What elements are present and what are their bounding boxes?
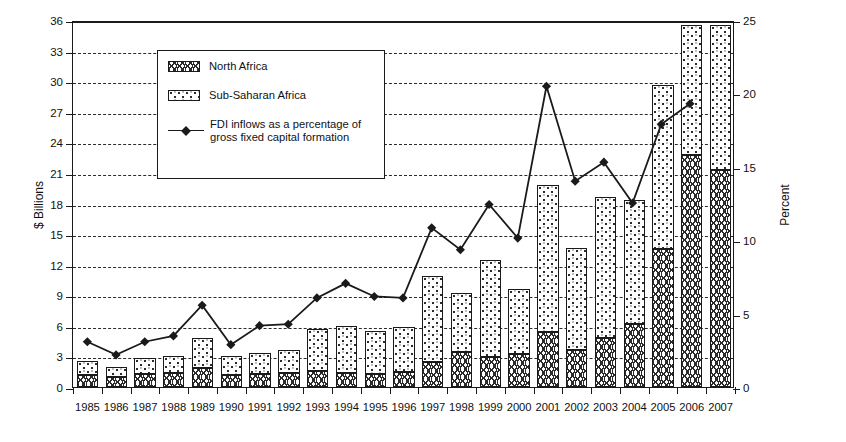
bar-stack (192, 338, 213, 387)
x-axis-tick (735, 387, 736, 394)
plot-area: 0369121518212427303336 0510152025 198519… (72, 21, 734, 388)
bar-segment-sub-saharan-africa (278, 350, 299, 372)
x-axis-tick-label: 2001 (534, 401, 563, 413)
y-axis-left-tick (66, 267, 73, 268)
line-diamond-icon (168, 125, 204, 137)
x-axis-tick (534, 387, 535, 394)
x-axis-tick-label: 1989 (188, 401, 217, 413)
x-axis-tick (102, 387, 103, 394)
bar-segment-north-africa (624, 324, 645, 387)
y-axis-left-tick (66, 389, 73, 390)
y-axis-left-tick (66, 328, 73, 329)
y-axis-left-tick-label: 6 (57, 322, 63, 334)
bar-segment-north-africa (336, 373, 357, 387)
bar-segment-north-africa (566, 350, 587, 387)
x-axis-tick-label: 2007 (706, 401, 735, 413)
bar-stack (77, 361, 98, 388)
bar-segment-north-africa (77, 375, 98, 387)
x-axis-tick-label: 1991 (246, 401, 275, 413)
bar-segment-sub-saharan-africa (508, 289, 529, 354)
x-axis-tick (361, 387, 362, 394)
y-axis-left-tick-label: 18 (50, 200, 63, 212)
y-axis-left-title: $ Billions (32, 180, 46, 228)
bar-stack (537, 185, 558, 387)
bar-segment-sub-saharan-africa (451, 293, 472, 352)
y-axis-left-tick (66, 83, 73, 84)
bar-stack (393, 327, 414, 387)
legend-item-north-africa: North Africa (168, 60, 374, 73)
legend-item-fdi-percentage: FDI inflows as a percentage of gross fix… (168, 118, 374, 144)
legend-label-sub-saharan-africa: Sub-Saharan Africa (209, 89, 306, 102)
y-axis-right-tick (733, 242, 740, 243)
bar-segment-sub-saharan-africa (393, 327, 414, 372)
bar-stack (307, 329, 328, 387)
chart-figure: 0369121518212427303336 0510152025 198519… (0, 0, 846, 442)
x-axis-tick (390, 387, 391, 394)
bar-stack (710, 25, 731, 387)
x-axis-tick (246, 387, 247, 394)
y-axis-left-tick-label: 33 (50, 47, 63, 59)
bar-stack (163, 356, 184, 387)
y-axis-right-tick-label: 5 (743, 310, 749, 322)
bar-segment-sub-saharan-africa (221, 356, 242, 374)
bar-stack (595, 197, 616, 387)
x-axis-tick (303, 387, 304, 394)
x-axis-tick (677, 387, 678, 394)
bar-stack (365, 331, 386, 387)
bar-stack (652, 85, 673, 387)
x-axis-tick-label: 1999 (476, 401, 505, 413)
x-axis-tick-label: 2006 (677, 401, 706, 413)
x-axis-tick-label: 1986 (102, 401, 131, 413)
bar-segment-north-africa (365, 374, 386, 387)
bar-segment-sub-saharan-africa (624, 200, 645, 323)
x-axis-tick-label: 2002 (562, 401, 591, 413)
legend-item-sub-saharan-africa: Sub-Saharan Africa (168, 89, 374, 102)
bar-stack (336, 326, 357, 387)
bar-segment-north-africa (508, 354, 529, 387)
bar-stack (249, 353, 270, 387)
y-axis-right-tick-label: 10 (743, 236, 756, 248)
legend-label-north-africa: North Africa (209, 60, 267, 73)
bar-segment-north-africa (480, 357, 501, 387)
y-axis-right-tick-label: 15 (743, 163, 756, 175)
bar-segment-sub-saharan-africa (163, 356, 184, 372)
bar-segment-sub-saharan-africa (249, 353, 270, 373)
bar-segment-north-africa (249, 374, 270, 387)
y-axis-left-tick (66, 297, 73, 298)
x-axis-tick (562, 387, 563, 394)
y-axis-left-tick-label: 36 (50, 16, 63, 28)
bar-segment-north-africa (278, 373, 299, 387)
bar-segment-sub-saharan-africa (480, 260, 501, 358)
x-axis-tick-label: 1992 (274, 401, 303, 413)
x-axis-tick-label: 2005 (649, 401, 678, 413)
bar-segment-north-africa (393, 372, 414, 387)
bar-segment-sub-saharan-africa (595, 197, 616, 338)
bar-segment-sub-saharan-africa (307, 329, 328, 371)
x-axis-tick (418, 387, 419, 394)
y-axis-right-tick (733, 169, 740, 170)
swatch-speckle-icon (168, 90, 200, 101)
x-axis-tick-label: 1995 (361, 401, 390, 413)
y-axis-left-tick-label: 0 (57, 383, 63, 395)
bar-segment-north-africa (192, 368, 213, 387)
y-axis-left-tick-label: 27 (50, 108, 63, 120)
bar-stack (278, 350, 299, 387)
bar-segment-north-africa (451, 352, 472, 387)
bar-segment-north-africa (710, 170, 731, 387)
bar-segment-sub-saharan-africa (336, 326, 357, 373)
bar-segment-north-africa (595, 338, 616, 387)
y-axis-right-tick (733, 22, 740, 23)
x-axis-tick-label: 1985 (73, 401, 102, 413)
x-axis-tick (131, 387, 132, 394)
y-axis-left-tick (66, 236, 73, 237)
x-axis-tick-label: 2004 (620, 401, 649, 413)
y-axis-right-tick-label: 25 (743, 16, 756, 28)
bar-segment-sub-saharan-africa (681, 25, 702, 154)
x-axis-tick (620, 387, 621, 394)
bar-segment-north-africa (681, 155, 702, 387)
y-axis-left-tick-label: 21 (50, 169, 63, 181)
bar-segment-sub-saharan-africa (537, 185, 558, 332)
legend-label-fdi-line2: gross fixed capital formation (210, 131, 349, 143)
bar-segment-north-africa (422, 362, 443, 387)
bar-segment-sub-saharan-africa (710, 25, 731, 170)
